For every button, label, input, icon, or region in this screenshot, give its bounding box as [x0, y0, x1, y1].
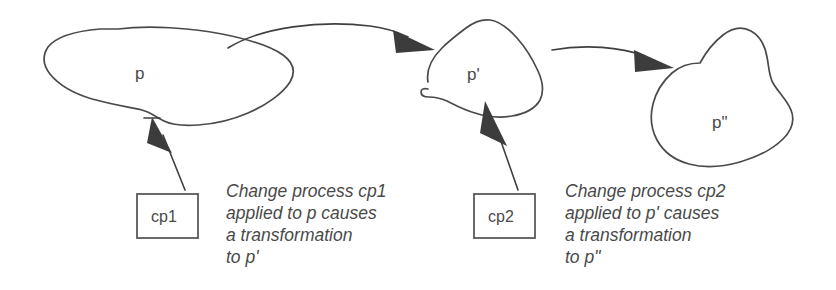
- blob-p-prime-label: p': [467, 65, 480, 84]
- arrow-p-prime-to-p-double-prime-line: [552, 47, 645, 56]
- caption-cp1-line-4: to p': [226, 247, 259, 267]
- arrow-cp2-to-p-prime-head: [480, 101, 507, 146]
- blob-p-label: p: [135, 64, 144, 83]
- caption-cp2-line-2: applied to p' causes: [565, 203, 719, 223]
- arrow-p-prime-to-p-double-prime: [552, 47, 674, 72]
- box-cp1-label: cp1: [151, 208, 177, 225]
- box-cp2-label: cp2: [488, 208, 514, 225]
- box-cp2-group[interactable]: cp2: [474, 194, 535, 238]
- caption-cp2: Change process cp2 applied to p' causes …: [565, 181, 726, 267]
- arrow-p-prime-to-p-double-prime-head: [634, 50, 674, 72]
- caption-cp1-line-1: Change process cp1: [226, 181, 387, 201]
- arrow-p-to-p-prime-head: [393, 30, 435, 53]
- caption-cp1-line-3: a transformation: [226, 225, 352, 245]
- arrow-cp2-to-p-prime: [480, 101, 518, 190]
- caption-cp1-line-2: applied to p causes: [226, 203, 377, 223]
- caption-cp1: Change process cp1 applied to p causes a…: [226, 181, 387, 267]
- caption-cp2-line-4: to p": [565, 247, 601, 267]
- blob-p-group: p: [44, 27, 293, 125]
- caption-cp2-line-1: Change process cp2: [565, 181, 726, 201]
- box-cp1-group[interactable]: cp1: [137, 194, 198, 238]
- arrow-cp1-to-p: [144, 117, 185, 190]
- blob-p-double-prime-outline: [651, 28, 792, 166]
- arrow-p-to-p-prime: [228, 24, 435, 53]
- diagram-svg: p p' p" cp1: [0, 0, 836, 290]
- blob-p-outline: [44, 27, 293, 125]
- blob-p-double-prime-label: p": [712, 113, 728, 132]
- blob-p-double-prime-group: p": [651, 28, 792, 166]
- diagram-canvas: p p' p" cp1: [0, 0, 836, 290]
- blob-p-prime-group: p': [421, 20, 542, 117]
- caption-cp2-line-3: a transformation: [565, 225, 691, 245]
- blob-p-prime-outline: [421, 20, 542, 117]
- arrow-p-to-p-prime-line: [228, 24, 408, 48]
